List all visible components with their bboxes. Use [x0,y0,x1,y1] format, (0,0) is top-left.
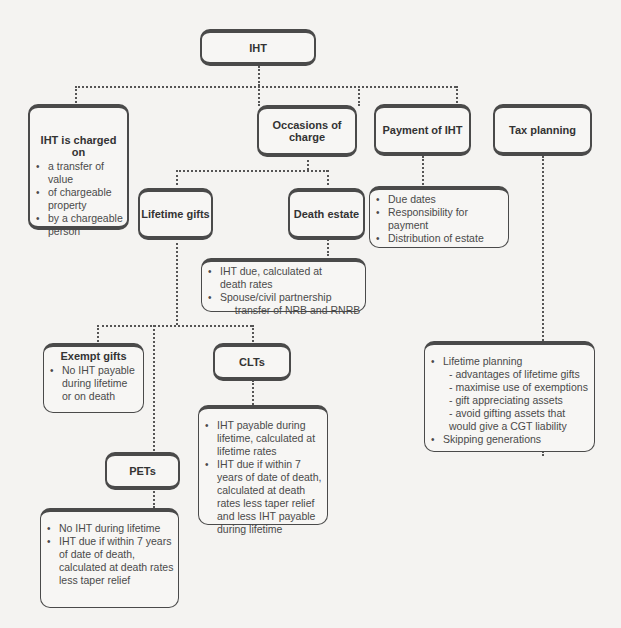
list-item-text: Lifetime planning [443,355,522,367]
list-item: by a chargeable person [34,212,123,238]
clts-box: CLTs [213,343,291,381]
list-subitem: - maximise use of exemptions [443,381,590,394]
connector [258,66,260,86]
list-item: IHT due, calculated at death rates [206,265,350,291]
exempt-gifts-box: Exempt gifts No IHT payable during lifet… [43,343,144,413]
list-item: Distribution of estate [374,232,504,245]
connector [153,325,155,455]
payment-title: Payment of IHT [382,124,462,136]
list-subitem: - advantages of lifetime gifts [443,368,590,381]
pets-title: PETs [129,465,156,477]
tax-planning-title: Tax planning [509,124,576,136]
clts-list: IHT payable during lifetime, calculated … [203,419,323,536]
connector [176,170,328,172]
list-item: Responsibility for payment [374,206,468,232]
connector [176,243,178,325]
iht-root-box: IHT [200,29,316,66]
iht-root-title: IHT [249,42,267,54]
payment-list: Due dates Responsibility for payment Dis… [374,193,504,245]
tax-planning-details-box: Lifetime planning - advantages of lifeti… [424,341,595,452]
connector [75,86,456,88]
list-subitem: - avoid gifting assets that would give a… [443,407,590,433]
list-subitem: – transfer of NRB and RNRB [220,304,361,317]
list-item: Skipping generations [429,433,590,446]
connector [97,325,99,345]
list-item: No IHT payable during lifetime or on dea… [48,364,139,403]
clts-details-box: IHT payable during lifetime, calculated … [198,405,328,525]
list-item: No IHT during lifetime [45,522,174,535]
occasions-title: Occasions of charge [272,119,342,143]
tax-planning-box: Tax planning [493,104,592,156]
connector [358,86,360,106]
payment-box: Payment of IHT [374,104,471,156]
connector [75,86,77,106]
tax-planning-list: Lifetime planning - advantages of lifeti… [429,355,590,446]
pets-box: PETs [105,452,180,490]
connector [153,488,155,508]
occasions-box: Occasions of charge [257,105,357,157]
connector [307,155,309,170]
lifetime-gifts-box: Lifetime gifts [138,188,213,240]
exempt-gifts-title: Exempt gifts [48,350,139,362]
connector [327,170,329,185]
charged-on-title: IHT is charged on [34,134,123,158]
pets-list: No IHT during lifetime IHT due if within… [45,522,174,587]
list-item-text: Spouse/civil partnership [220,291,331,303]
payment-details-box: Due dates Responsibility for payment Dis… [369,186,509,248]
clts-title: CLTs [239,356,265,368]
connector [258,86,260,106]
connector [97,325,252,327]
charged-on-box: IHT is charged on a transfer of value of… [28,104,129,230]
list-item: a transfer of value [34,160,123,186]
list-item: Lifetime planning - advantages of lifeti… [429,355,590,433]
lifetime-gifts-title: Lifetime gifts [141,208,209,220]
death-estate-box: Death estate [288,188,365,240]
list-item: Spouse/civil partnership – transfer of N… [206,291,361,317]
list-item: IHT due if within 7 years of date of dea… [203,458,323,536]
death-estate-list: IHT due, calculated at death rates Spous… [206,265,361,317]
death-estate-details-box: IHT due, calculated at death rates Spous… [201,258,366,312]
death-estate-title: Death estate [294,208,359,220]
list-item: IHT due if within 7 years of date of dea… [45,535,174,587]
list-subitem: - gift appreciating assets [443,394,590,407]
list-item: of chargeable property [34,186,123,212]
pets-details-box: No IHT during lifetime IHT due if within… [40,508,179,608]
charged-on-list: a transfer of value of chargeable proper… [34,160,123,238]
list-item: Due dates [374,193,504,206]
exempt-gifts-list: No IHT payable during lifetime or on dea… [48,364,139,403]
connector [176,170,178,185]
connector [252,325,254,345]
connector [252,380,254,405]
connector [456,86,458,106]
list-item: IHT payable during lifetime, calculated … [203,419,323,458]
